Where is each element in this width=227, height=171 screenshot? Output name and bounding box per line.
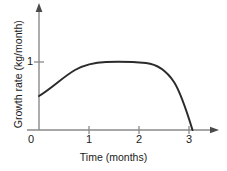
chart-plot-area (0, 0, 227, 171)
x-axis-tick-label-1: 1 (82, 134, 96, 145)
y-axis-title: Growth rate (kg/month) (13, 9, 24, 139)
x-axis-arrowhead (210, 127, 219, 133)
x-axis-title: Time (months) (0, 152, 227, 163)
growth-rate-chart: 0 1 2 3 1 Time (months) Growth rate (kg/… (0, 0, 227, 171)
y-axis-arrowhead (36, 3, 43, 12)
x-axis-tick-label-3: 3 (182, 134, 196, 145)
x-axis-tick-label-2: 2 (132, 134, 146, 145)
growth-rate-curve (39, 62, 193, 130)
x-axis-tick-label-0: 0 (24, 134, 38, 145)
